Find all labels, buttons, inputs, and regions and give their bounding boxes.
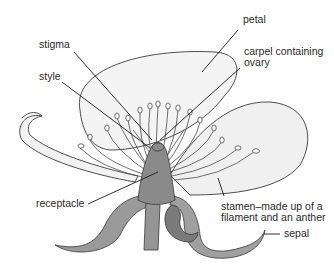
label-style: style — [39, 71, 61, 82]
label-petal: petal — [243, 14, 266, 25]
label-carpel: carpel containing ovary — [244, 46, 323, 68]
label-receptacle: receptacle — [36, 198, 84, 209]
label-stamen: stamen–made up of a filament and an anth… — [221, 201, 326, 223]
label-sepal: sepal — [284, 228, 309, 239]
stigma-shape — [152, 143, 164, 151]
stem — [144, 200, 160, 250]
label-stigma: stigma — [39, 39, 70, 50]
